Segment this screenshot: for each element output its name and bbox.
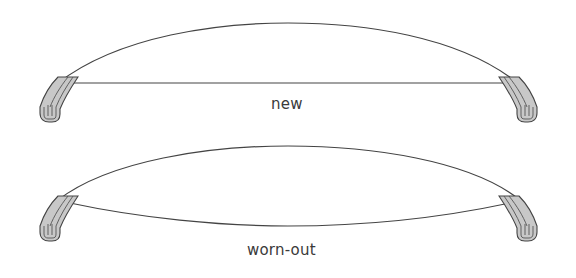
worn-right-clip <box>499 196 537 241</box>
label-new: new <box>271 95 303 113</box>
new-left-clip <box>40 77 78 122</box>
new-right-clip <box>499 77 537 122</box>
worn-blade-figure <box>40 146 537 241</box>
new-frame-curve <box>58 23 520 85</box>
worn-rubber-edge-bowed <box>70 203 510 226</box>
wiper-blade-diagram <box>0 0 576 278</box>
label-worn-out: worn-out <box>247 241 316 259</box>
worn-left-clip <box>40 196 78 241</box>
worn-frame-curve <box>58 146 520 200</box>
